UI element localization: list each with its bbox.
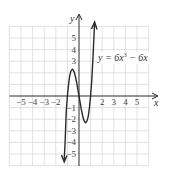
x-tick-label: −5: [16, 97, 26, 107]
equation-prefix: y = 6x: [97, 52, 124, 63]
x-tick-label: 4: [123, 97, 128, 107]
x-axis-label: x: [153, 97, 159, 108]
y-tick-label: 4: [72, 45, 77, 55]
svg-text:y = 6x3 − 6x: y = 6x3 − 6x: [97, 52, 148, 63]
y-tick-label: −2: [66, 114, 76, 124]
x-tick-labels: −5 −4 −3 −2 2 3 4 5: [16, 97, 140, 107]
equation-label: y = 6x3 − 6x: [97, 52, 151, 64]
y-tick-label: 3: [72, 56, 77, 66]
x-tick-label: 3: [112, 97, 117, 107]
cubic-function-chart: −5 −4 −3 −2 2 3 4 5 5 4 3 −1 −2 −3 −4 −5…: [0, 0, 172, 175]
x-tick-label: 2: [100, 97, 105, 107]
y-tick-label: −4: [66, 137, 76, 147]
x-tick-label: −2: [51, 97, 61, 107]
axes: [9, 14, 158, 166]
x-tick-label: −3: [39, 97, 49, 107]
y-tick-label: −3: [66, 126, 76, 136]
y-tick-label: 5: [72, 33, 77, 43]
x-tick-label: 5: [135, 97, 140, 107]
y-tick-label: −1: [66, 103, 76, 113]
y-axis-label: y: [69, 13, 75, 24]
equation-suffix: − 6x: [127, 52, 149, 63]
y-tick-label: −5: [66, 149, 76, 159]
x-tick-label: −4: [28, 97, 38, 107]
